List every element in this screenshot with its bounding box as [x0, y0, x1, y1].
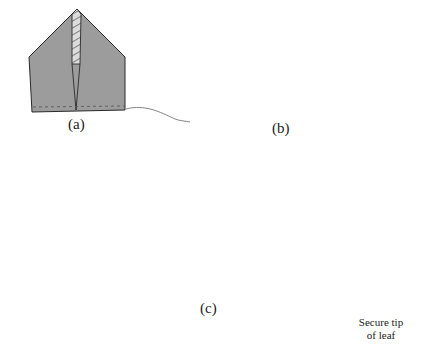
secure-tip-annotation: Secure tip of leaf — [346, 316, 416, 342]
annotation-line-1: Secure tip — [346, 316, 416, 329]
caption-a: (a) — [68, 117, 85, 132]
annotation-line-2: of leaf — [346, 329, 416, 342]
caption-b: (b) — [272, 121, 290, 136]
panel-a-folded-fabric — [29, 9, 190, 122]
caption-c: (c) — [200, 301, 217, 316]
